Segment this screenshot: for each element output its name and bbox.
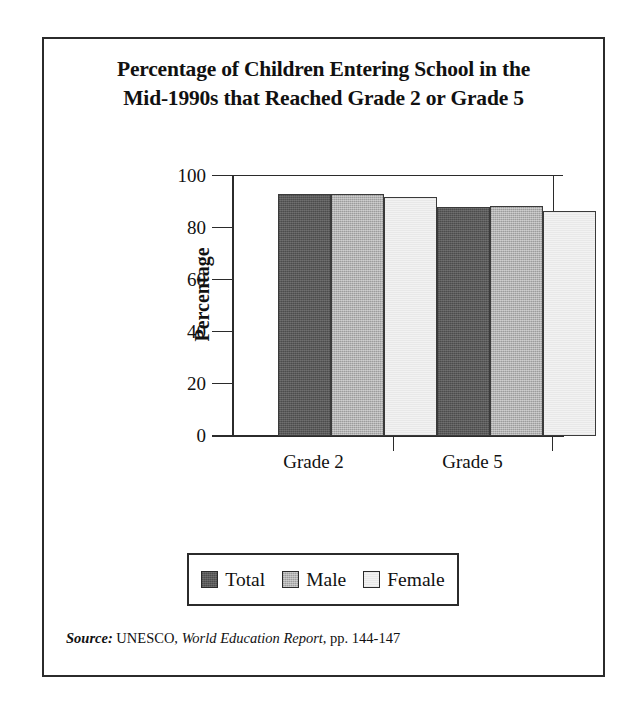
bar-grade-5-total <box>437 207 490 436</box>
y-axis-tick <box>212 175 232 176</box>
legend-item-female: Female <box>363 570 444 590</box>
bar-grade-2-male <box>331 194 384 436</box>
source-organization: UNESCO, <box>116 630 178 646</box>
plot-wrap: Percentage 020406080100 Grade 2Grade 5 <box>190 175 554 475</box>
y-axis-label: 80 <box>146 218 206 237</box>
bar-grade-2-female <box>384 197 437 436</box>
x-axis-tick <box>393 435 394 451</box>
y-axis-label: 20 <box>146 374 206 393</box>
y-axis-tick <box>212 383 232 384</box>
y-axis-label: 100 <box>146 166 206 185</box>
y-axis-label: 60 <box>146 270 206 289</box>
legend-label-total: Total <box>225 570 265 590</box>
figure-frame: Percentage of Children Entering School i… <box>42 37 605 677</box>
bars-layer <box>278 176 598 436</box>
source-publication: World Education Report <box>182 630 323 646</box>
y-axis-label: 0 <box>146 426 206 445</box>
y-axis-tick <box>212 227 232 228</box>
y-axis-tick <box>212 279 232 280</box>
legend-label-male: Male <box>306 570 346 590</box>
x-axis-label-grade-2: Grade 2 <box>234 451 394 473</box>
legend-swatch-total <box>201 571 218 588</box>
source-label: Source: <box>66 630 113 646</box>
y-axis-tick-right <box>553 175 563 176</box>
plot-area <box>232 175 554 435</box>
legend-swatch-female <box>363 571 380 588</box>
chart-title-line-2: Mid-1990s that Reached Grade 2 or Grade … <box>44 84 603 113</box>
bar-grade-5-male <box>490 206 543 436</box>
x-axis-tick <box>552 435 553 451</box>
legend-swatch-male <box>282 571 299 588</box>
bar-grade-5-female <box>543 211 596 436</box>
legend-item-total: Total <box>201 570 265 590</box>
legend-item-male: Male <box>282 570 346 590</box>
source-pages: , pp. 144-147 <box>323 630 400 646</box>
source-note: Source: UNESCO, World Education Report, … <box>66 630 400 647</box>
legend-label-female: Female <box>387 570 444 590</box>
bar-grade-2-total <box>278 194 331 436</box>
x-axis-label-grade-5: Grade 5 <box>393 451 553 473</box>
y-axis-tick <box>212 331 232 332</box>
y-axis-label: 40 <box>146 322 206 341</box>
chart-legend: TotalMaleFemale <box>187 553 459 606</box>
chart-title: Percentage of Children Entering School i… <box>44 55 603 113</box>
chart-title-line-1: Percentage of Children Entering School i… <box>44 55 603 84</box>
